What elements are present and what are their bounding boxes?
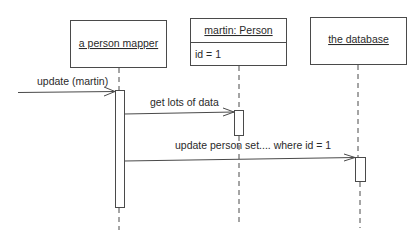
activation-bar	[356, 158, 366, 182]
activation-bar	[235, 111, 244, 136]
participant-the-database: the database	[311, 18, 407, 229]
message-update-martin: update (martin)	[18, 75, 115, 96]
participant-label: the database	[328, 33, 389, 45]
attribute-label: id = 1	[195, 48, 221, 60]
activation-bar	[116, 91, 125, 208]
participant-label: martin: Person	[204, 24, 272, 36]
message-label: update (martin)	[37, 75, 108, 87]
participant-label: a person mapper	[79, 37, 159, 49]
sequence-diagram: a person mapper martin: Person id = 1 th…	[0, 0, 419, 241]
participant-a-person-mapper: a person mapper	[71, 21, 167, 231]
message-label: update person set.... where id = 1	[175, 139, 331, 151]
participant-martin-person: martin: Person id = 1	[191, 19, 287, 223]
message-get-lots-of-data: get lots of data	[124, 96, 234, 116]
message-label: get lots of data	[150, 96, 219, 108]
